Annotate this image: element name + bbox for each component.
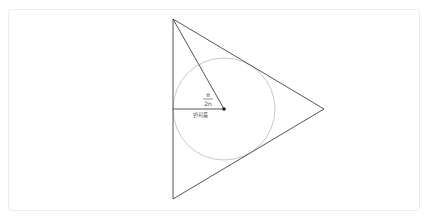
incircle-triangle-diagram: π 2n 반지름 bbox=[0, 0, 429, 219]
center-point bbox=[222, 107, 226, 111]
angle-numerator-label: π bbox=[206, 91, 210, 98]
angle-denominator-label: 2n bbox=[204, 100, 212, 107]
vertex-to-center-line bbox=[173, 19, 224, 109]
radius-label: 반지름 bbox=[193, 111, 208, 119]
